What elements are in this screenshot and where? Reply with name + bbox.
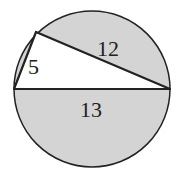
label-hypotenuse: 13 <box>80 97 102 122</box>
label-short-leg: 5 <box>28 54 39 79</box>
label-long-leg: 12 <box>97 36 119 61</box>
diagram-canvas: 5 12 13 <box>0 0 178 174</box>
